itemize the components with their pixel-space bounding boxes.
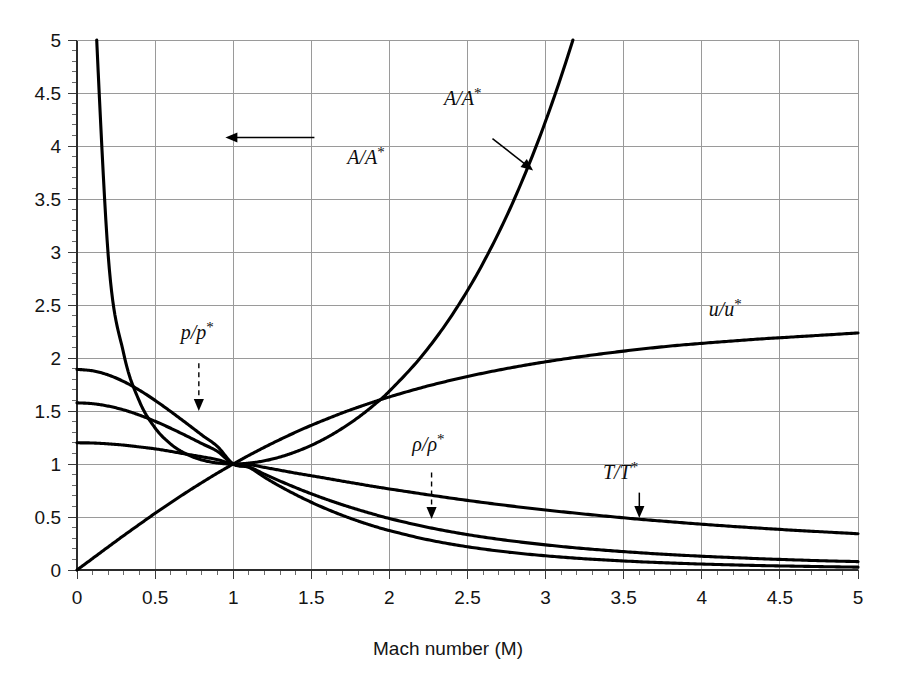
curve-label-base: p/p <box>179 321 207 344</box>
y-tick-label: 3 <box>50 242 61 263</box>
x-tick-label: 1.5 <box>298 587 324 608</box>
x-tick-label: 4.5 <box>767 587 793 608</box>
x-axis-title: Mach number (M) <box>373 638 523 659</box>
curve-label-superscript: * <box>631 459 639 475</box>
x-tick-label: 3 <box>540 587 551 608</box>
y-tick-label: 3.5 <box>35 189 61 210</box>
curve-label-base: A/A <box>442 87 475 109</box>
x-tick-label: 5 <box>853 587 864 608</box>
curve-label-base: u/u <box>709 298 735 320</box>
curve-label-base: ρ/ρ <box>411 433 437 456</box>
x-tick-label: 2 <box>384 587 395 608</box>
curve-label-superscript: * <box>206 319 214 335</box>
curve-label-base: T/T <box>603 461 633 483</box>
y-tick-label: 0 <box>50 560 61 581</box>
curve-label-superscript: * <box>734 296 742 312</box>
curve-label-superscript: * <box>377 144 385 160</box>
curve-label-superscript: * <box>474 85 482 101</box>
y-tick-label: 1.5 <box>35 401 61 422</box>
y-tick-label: 0.5 <box>35 507 61 528</box>
y-tick-label: 4 <box>50 136 61 157</box>
curve-label-superscript: * <box>437 431 445 447</box>
x-tick-label: 0.5 <box>142 587 168 608</box>
chart-figure: A/A*A/A*p/p*ρ/ρ*T/T*u/u* 00.511.522.533.… <box>0 0 897 683</box>
x-tick-label: 3.5 <box>610 587 636 608</box>
x-tick-label: 2.5 <box>454 587 480 608</box>
x-tick-label: 1 <box>228 587 239 608</box>
y-tick-label: 5 <box>50 30 61 51</box>
y-tick-label: 1 <box>50 454 61 475</box>
isentropic-flow-ratio-chart: A/A*A/A*p/p*ρ/ρ*T/T*u/u* 00.511.522.533.… <box>0 0 897 683</box>
curve-label-base: A/A <box>345 146 378 168</box>
y-tick-label: 2 <box>50 348 61 369</box>
x-tick-label: 0 <box>72 587 83 608</box>
x-tick-label: 4 <box>697 587 708 608</box>
y-tick-label: 4.5 <box>35 83 61 104</box>
y-tick-label: 2.5 <box>35 295 61 316</box>
